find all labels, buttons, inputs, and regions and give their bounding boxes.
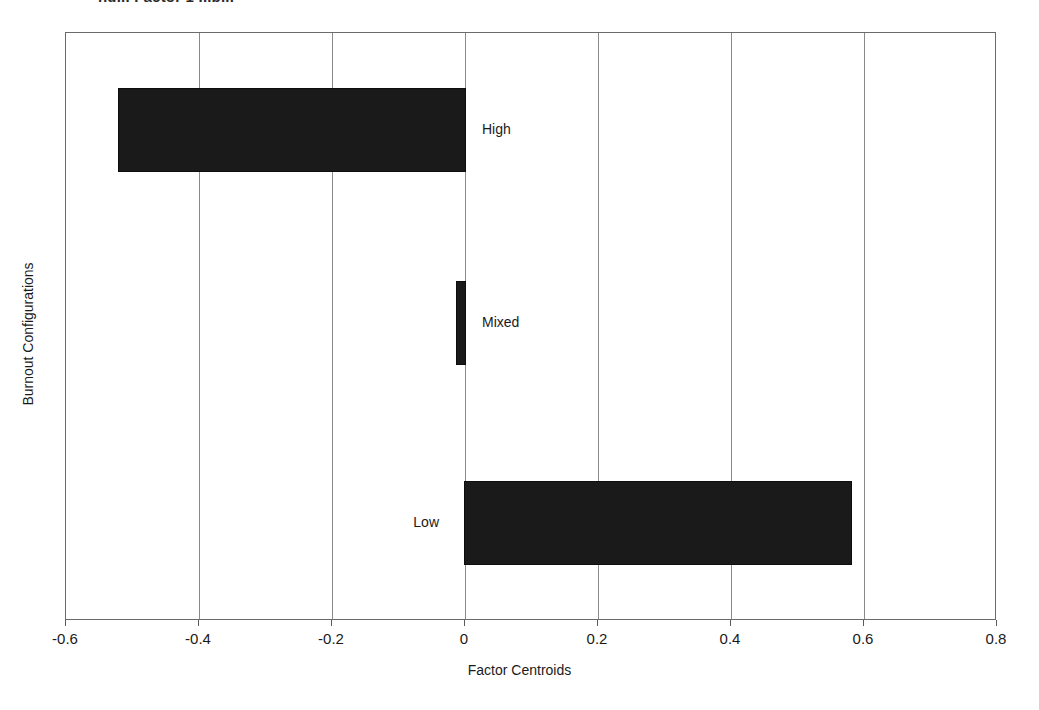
x-axis-tick <box>464 620 465 626</box>
y-axis-label: Burnout Configurations <box>20 40 36 628</box>
x-axis-tick-label: 0.2 <box>587 630 608 647</box>
x-axis-tick <box>331 620 332 626</box>
plot-area: HighMixedLow <box>65 32 996 620</box>
x-axis-tick-label: -0.2 <box>318 630 344 647</box>
gridline <box>864 33 865 619</box>
bar-label-low: Low <box>413 514 439 530</box>
x-axis-label: Factor Centroids <box>0 662 1039 678</box>
x-axis-tick <box>198 620 199 626</box>
x-axis-tick <box>863 620 864 626</box>
x-axis-tick-label: 0.8 <box>986 630 1007 647</box>
x-axis-tick-label: -0.4 <box>185 630 211 647</box>
bar-mixed <box>457 282 465 364</box>
bar-label-high: High <box>482 121 511 137</box>
x-axis-tick-label: 0 <box>460 630 468 647</box>
x-axis-tick-label: -0.6 <box>52 630 78 647</box>
x-axis-tick-label: 0.6 <box>853 630 874 647</box>
x-axis-tick <box>996 620 997 626</box>
x-axis-tick <box>597 620 598 626</box>
x-axis-tick <box>65 620 66 626</box>
x-axis-tick-label: 0.4 <box>720 630 741 647</box>
bar-high <box>119 89 465 171</box>
bar-low <box>465 482 851 564</box>
x-axis-tick <box>730 620 731 626</box>
bar-chart-figure: HighMixedLow Factor Centroids Burnout Co… <box>0 0 1039 710</box>
bar-label-mixed: Mixed <box>482 314 519 330</box>
